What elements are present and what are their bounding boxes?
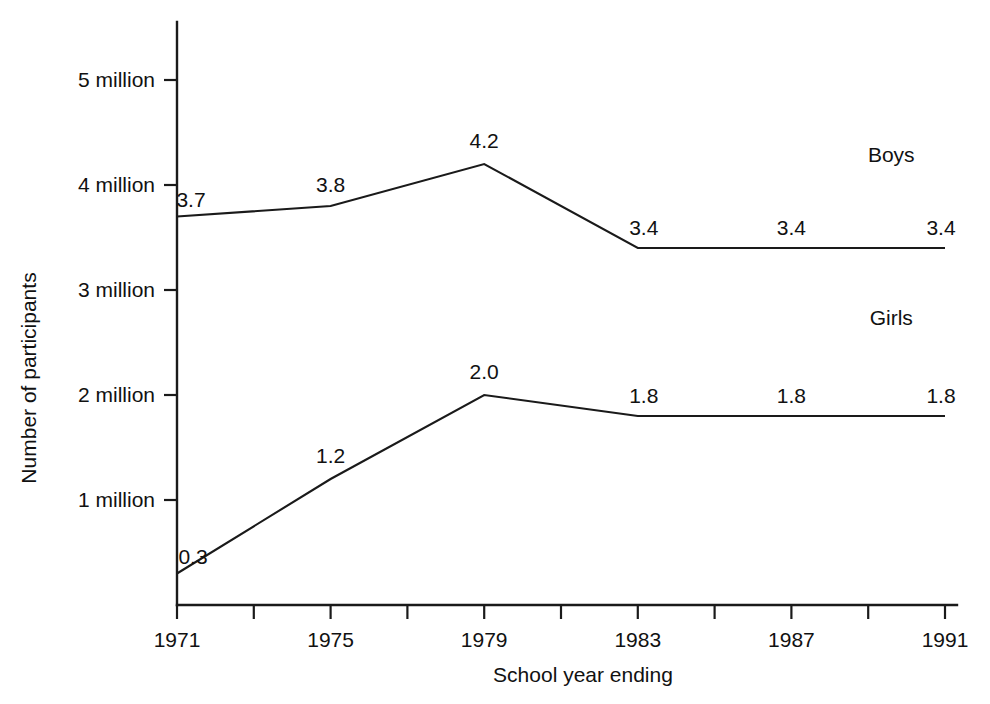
point-label-girls: 1.8 (926, 384, 955, 407)
x-tick-label: 1983 (614, 628, 661, 651)
x-tick-label: 1991 (922, 628, 969, 651)
y-axis-tick-labels: 1 million2 million3 million4 million5 mi… (78, 68, 155, 511)
series-legend-labels: BoysGirls (868, 143, 915, 329)
chart-figure: 1 million2 million3 million4 million5 mi… (0, 0, 990, 704)
x-tick-label: 1987 (768, 628, 815, 651)
x-axis-ticks (177, 605, 945, 619)
point-label-boys: 3.4 (629, 216, 659, 239)
point-label-boys: 3.8 (316, 173, 345, 196)
series-line-boys (177, 164, 945, 248)
point-label-girls: 1.8 (777, 384, 806, 407)
data-series (177, 164, 945, 574)
series-name-boys: Boys (868, 143, 915, 166)
x-axis-title: School year ending (493, 663, 673, 686)
y-tick-label: 3 million (78, 278, 155, 301)
y-axis-ticks (164, 80, 177, 500)
y-tick-label: 5 million (78, 68, 155, 91)
series-name-girls: Girls (870, 306, 913, 329)
point-label-boys: 3.4 (777, 216, 807, 239)
x-tick-label: 1971 (154, 628, 201, 651)
point-label-girls: 2.0 (470, 360, 499, 383)
line-chart: 1 million2 million3 million4 million5 mi… (0, 0, 990, 704)
point-label-boys: 4.2 (470, 129, 499, 152)
x-tick-label: 1979 (461, 628, 508, 651)
x-tick-label: 1975 (307, 628, 354, 651)
x-axis-tick-labels: 197119751979198319871991 (154, 628, 969, 651)
point-label-boys: 3.4 (926, 216, 956, 239)
y-tick-label: 4 million (78, 173, 155, 196)
y-tick-label: 1 million (78, 488, 155, 511)
axes (177, 22, 957, 605)
point-label-girls: 0.3 (178, 545, 207, 568)
point-label-girls: 1.8 (629, 384, 658, 407)
point-label-girls: 1.2 (316, 444, 345, 467)
series-line-girls (177, 395, 945, 574)
y-axis-title: Number of participants (17, 272, 40, 483)
y-tick-label: 2 million (78, 383, 155, 406)
point-label-boys: 3.7 (176, 188, 205, 211)
